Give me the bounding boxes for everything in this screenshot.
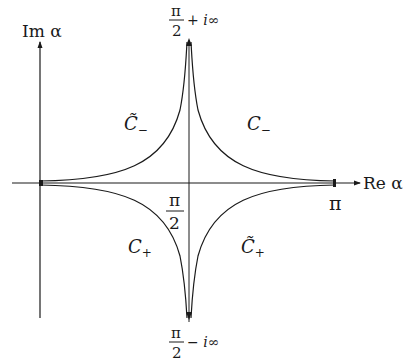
origin-tick (39, 180, 43, 186)
bottom-label-denominator: 2 (172, 344, 182, 362)
contour-upper-left (40, 42, 187, 181)
pi-tick (333, 179, 336, 187)
label-c-minus: C− (247, 113, 271, 137)
top-label-suffix: + i∞ (187, 12, 219, 28)
im-alpha-label: Im α (22, 21, 62, 41)
label-c-tilde-plus: C̃+ (241, 236, 265, 260)
label-c-tilde-minus: C̃− (124, 113, 148, 137)
half-pi-numerator: π (169, 190, 180, 210)
contour-upper-right (191, 42, 335, 181)
pi-label: π (329, 192, 342, 214)
top-label-denominator: 2 (172, 22, 182, 40)
re-alpha-label: Re α (363, 173, 403, 193)
contour-lower-left (40, 185, 187, 318)
contour-diagram: Im α Re α π π 2 π 2 + i∞ π 2 − i∞ C̃− C−… (0, 0, 417, 362)
top-label-numerator: π (171, 2, 181, 20)
half-pi-denominator: 2 (169, 213, 180, 233)
bottom-label-numerator: π (171, 324, 181, 342)
bottom-label-suffix: − i∞ (187, 334, 219, 350)
label-c-plus: C+ (128, 236, 152, 260)
